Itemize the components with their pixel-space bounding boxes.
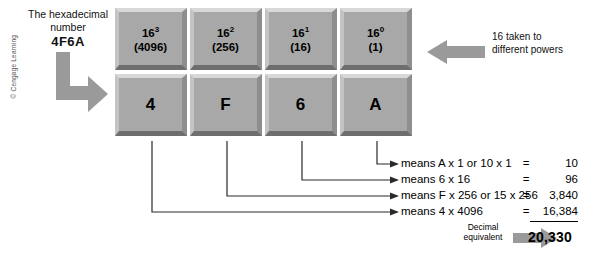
equation-row-1-sign: =: [520, 157, 532, 169]
equation-row-3-sign: =: [520, 189, 532, 201]
equation-row-2-value: 96: [536, 173, 578, 185]
sum-rule: [530, 221, 578, 222]
equation-row-4-sign: =: [520, 205, 532, 217]
decimal-equivalent-label: Decimal equivalent: [455, 222, 511, 242]
decimal-equivalent-line-1: Decimal: [455, 222, 511, 232]
equation-row-2: means 6 x 16 = 96: [0, 173, 592, 188]
decimal-total: 20,330: [528, 229, 572, 245]
equation-row-4-text: means 4 x 4096: [401, 205, 483, 217]
equation-row-1-value: 10: [536, 157, 578, 169]
equation-row-2-text: means 6 x 16: [401, 173, 470, 185]
equation-row-4-value: 16,384: [536, 205, 578, 217]
equation-row-3-value: 3,840: [536, 189, 578, 201]
equation-row-1: means A x 1 or 10 x 1 = 10: [0, 157, 592, 172]
decimal-equivalent-line-2: equivalent: [455, 232, 511, 242]
equation-row-3-text: means F x 256 or 15 x 256: [401, 189, 538, 201]
equation-row-1-text: means A x 1 or 10 x 1: [401, 157, 512, 169]
equation-row-2-sign: =: [520, 173, 532, 185]
hex-conversion-diagram: The hexadecimal number 4F6A © Cengage Le…: [0, 0, 592, 254]
equation-row-4: means 4 x 4096 = 16,384: [0, 205, 592, 220]
equation-row-3: means F x 256 or 15 x 256 = 3,840: [0, 189, 592, 204]
